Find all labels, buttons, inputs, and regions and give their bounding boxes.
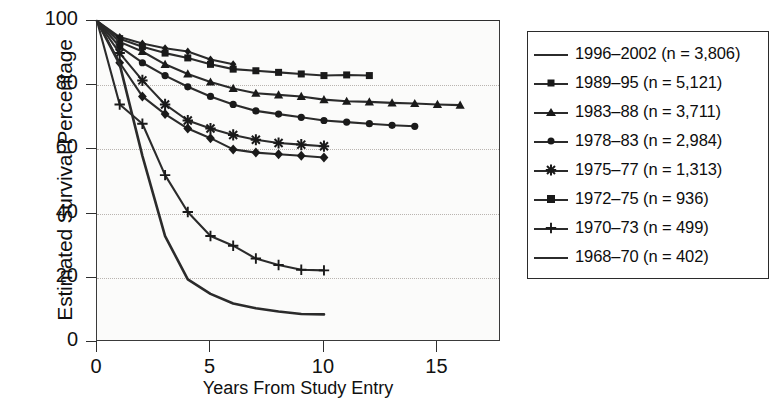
data-point	[230, 66, 237, 73]
legend-marker-plus-icon	[534, 221, 568, 235]
data-point	[298, 70, 305, 77]
data-point	[296, 265, 306, 275]
data-point	[273, 260, 283, 270]
data-point	[160, 99, 170, 110]
legend-line	[534, 257, 568, 259]
x-tick-5	[209, 341, 210, 352]
data-point	[343, 119, 350, 126]
y-tick-label-80: 80	[22, 71, 78, 94]
legend-marker-none-icon	[534, 250, 568, 264]
legend-item-7[interactable]: 1968–70 (n = 402)	[528, 242, 768, 271]
data-point	[205, 123, 215, 134]
legend-box: 1996–2002 (n = 3,806)1989–95 (n = 5,121)…	[527, 31, 769, 279]
y-tick-label-40: 40	[22, 200, 78, 223]
legend-marker-square-icon	[534, 76, 568, 90]
data-point	[366, 120, 373, 127]
data-point	[160, 60, 169, 68]
data-point	[162, 50, 169, 57]
x-axis-title: Years From Study Entry	[96, 378, 500, 399]
legend-label: 1975–77 (n = 1,313)	[575, 160, 722, 179]
data-point	[411, 123, 418, 130]
data-point	[319, 141, 329, 152]
data-point	[320, 72, 327, 79]
data-point	[139, 59, 146, 66]
legend-glyph	[548, 79, 555, 86]
data-point	[343, 71, 350, 78]
x-tick-15	[436, 341, 437, 352]
data-point	[207, 93, 214, 100]
y-tick-label-100: 100	[22, 7, 78, 30]
x-tick-label-5: 5	[179, 355, 239, 378]
legend-marker-diamond-small-icon	[534, 47, 568, 61]
data-point	[185, 47, 191, 55]
legend-label: 1989–95 (n = 5,121)	[575, 73, 722, 92]
data-point	[275, 69, 282, 76]
legend-item-2[interactable]: 1983–88 (n = 3,711)	[528, 97, 768, 126]
data-point	[252, 107, 259, 114]
series-2	[97, 21, 465, 109]
x-tick-10	[323, 341, 324, 352]
x-tick-label-10: 10	[293, 355, 353, 378]
x-tick-label-15: 15	[406, 355, 466, 378]
data-point	[296, 139, 306, 150]
data-point	[251, 134, 261, 145]
data-point	[298, 114, 305, 121]
legend-glyph	[546, 108, 556, 116]
legend-glyph	[543, 162, 559, 178]
legend-label: 1970–73 (n = 499)	[575, 218, 709, 237]
legend-glyph	[548, 137, 555, 144]
legend-item-4[interactable]: 1975–77 (n = 1,313)	[528, 155, 768, 184]
data-point	[297, 151, 306, 161]
legend-glyph	[543, 220, 559, 236]
data-point	[366, 72, 373, 79]
data-series-layer	[97, 21, 501, 342]
data-point	[251, 148, 260, 158]
legend-line	[534, 54, 568, 56]
legend-label: 1968–70 (n = 402)	[575, 247, 709, 266]
data-point	[275, 110, 282, 117]
survival-chart-figure: Estimated Survival Percentage 0204060801…	[0, 0, 774, 400]
data-point	[319, 265, 329, 275]
data-point	[229, 144, 238, 154]
legend-marker-triangle-icon	[534, 105, 568, 119]
data-point	[252, 67, 259, 74]
data-point	[184, 83, 191, 90]
data-point	[228, 129, 238, 140]
y-tick-label-0: 0	[22, 328, 78, 351]
legend-item-0[interactable]: 1996–2002 (n = 3,806)	[528, 39, 768, 68]
x-tick-0	[96, 341, 97, 352]
data-point	[274, 149, 283, 159]
legend-glyph	[547, 195, 555, 203]
data-point	[273, 137, 283, 148]
data-point	[207, 61, 214, 68]
legend-label: 1996–2002 (n = 3,806)	[575, 44, 740, 63]
data-point	[206, 133, 215, 143]
data-point	[388, 122, 395, 129]
legend-label: 1978–83 (n = 2,984)	[575, 131, 722, 150]
plot-area	[96, 20, 500, 341]
legend-label: 1983–88 (n = 3,711)	[575, 102, 721, 121]
x-tick-label-0: 0	[66, 355, 126, 378]
data-point	[161, 72, 168, 79]
legend-item-5[interactable]: 1972–75 (n = 936)	[528, 184, 768, 213]
legend-label: 1972–75 (n = 936)	[575, 189, 709, 208]
data-point	[320, 152, 329, 162]
y-tick-label-60: 60	[22, 135, 78, 158]
legend-item-3[interactable]: 1978–83 (n = 2,984)	[528, 126, 768, 155]
y-axis-title: Estimated Survival Percentage	[53, 15, 77, 345]
y-tick-label-20: 20	[22, 264, 78, 287]
data-point	[228, 241, 238, 251]
legend-marker-asterisk-icon	[534, 163, 568, 177]
data-point	[251, 253, 261, 263]
data-point	[320, 117, 327, 124]
data-point	[160, 170, 170, 180]
legend-marker-diamond-icon	[534, 192, 568, 206]
data-point	[230, 101, 237, 108]
data-point	[184, 54, 191, 61]
data-point	[137, 75, 147, 86]
data-point	[183, 124, 192, 134]
legend-item-1[interactable]: 1989–95 (n = 5,121)	[528, 68, 768, 97]
legend-item-6[interactable]: 1970–73 (n = 499)	[528, 213, 768, 242]
legend-marker-circle-icon	[534, 134, 568, 148]
